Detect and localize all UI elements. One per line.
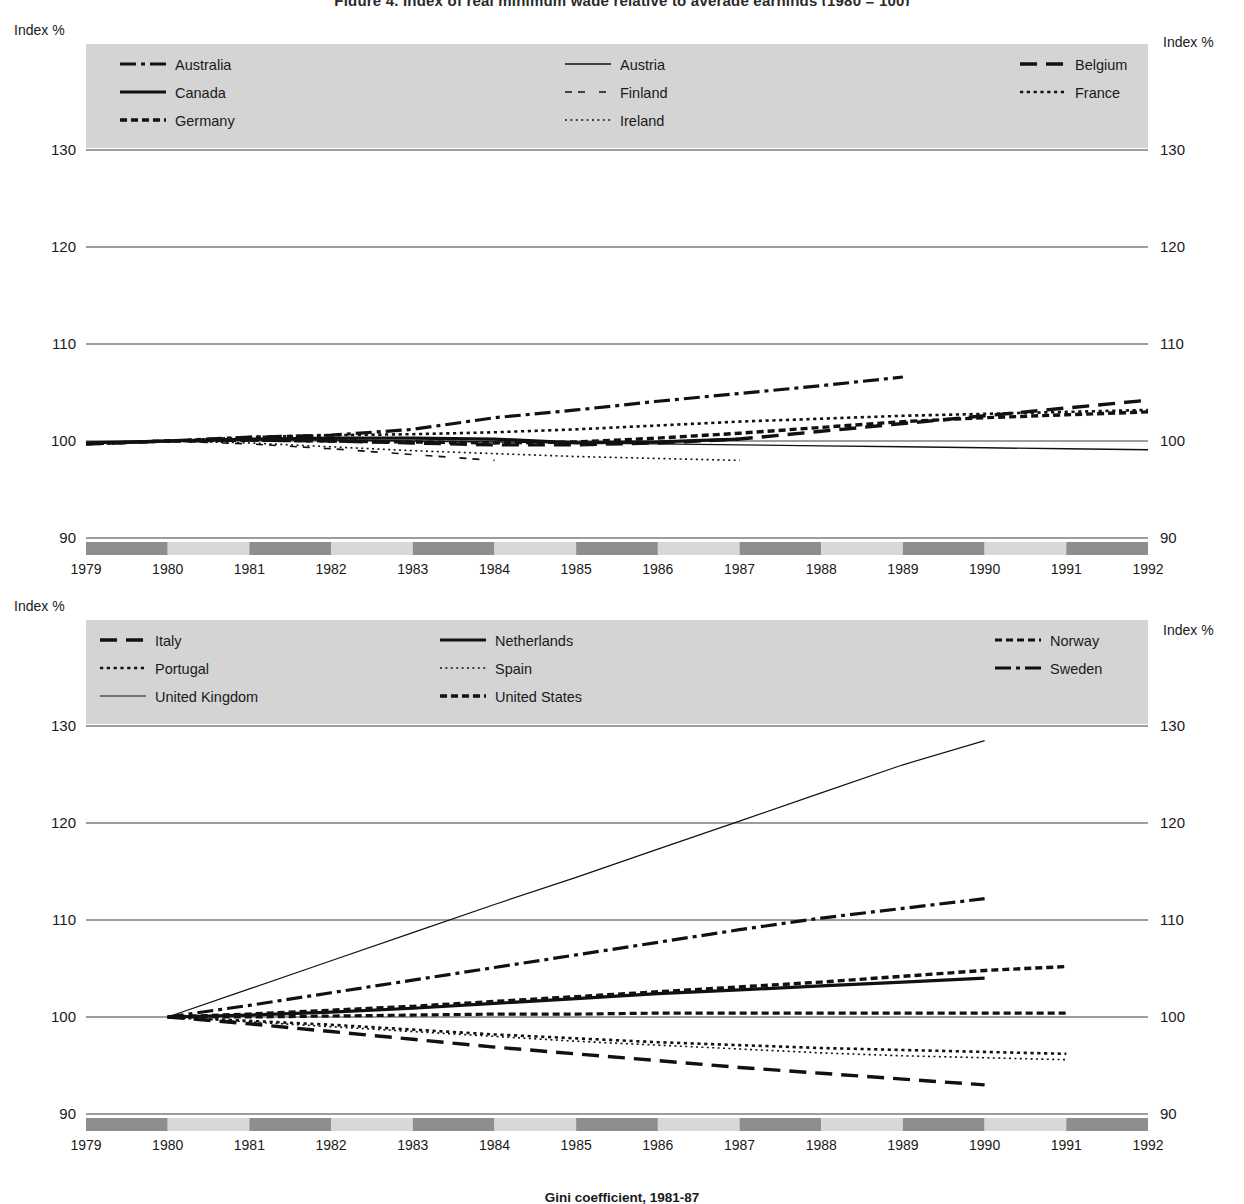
year-band-1980 [168, 1118, 250, 1131]
legend-label-spain: Spain [495, 661, 532, 677]
x-tick-label-1988: 1988 [806, 1137, 837, 1153]
legend-label-ireland: Ireland [620, 113, 664, 129]
y-tick-label-left-100: 100 [51, 432, 76, 449]
x-tick-label-1983: 1983 [397, 561, 428, 577]
x-tick-label-1980: 1980 [152, 561, 183, 577]
x-tick-label-1979: 1979 [70, 1137, 101, 1153]
year-band-1991 [1066, 1118, 1148, 1131]
year-band-1983 [413, 1118, 495, 1131]
legend-label-netherlands: Netherlands [495, 633, 573, 649]
year-band-1985 [576, 542, 658, 555]
y-tick-label-left-110: 110 [52, 911, 76, 928]
legend-label-sweden: Sweden [1050, 661, 1102, 677]
chart-bottom: Index % Index % 130130120120110110100100… [0, 598, 1244, 1183]
legend-label-portugal: Portugal [155, 661, 209, 677]
year-band-1981 [249, 1118, 331, 1131]
series-line-australia [86, 377, 903, 444]
y-tick-label-right-100: 100 [1160, 1008, 1185, 1025]
legend-label-austria: Austria [620, 57, 666, 73]
year-band-1987 [740, 542, 822, 555]
figure-title: Figure 4. Index of real minimum wage rel… [0, 0, 1244, 6]
y-tick-label-left-110: 110 [52, 335, 76, 352]
y-tick-label-left-130: 130 [51, 141, 76, 158]
year-band-1990 [985, 1118, 1067, 1131]
y-tick-label-right-110: 110 [1160, 911, 1184, 928]
legend-label-united-kingdom: United Kingdom [155, 689, 258, 705]
x-tick-label-1990: 1990 [969, 1137, 1000, 1153]
legend-label-france: France [1075, 85, 1120, 101]
y-tick-label-right-90: 90 [1160, 529, 1177, 546]
y-tick-label-left-90: 90 [59, 1105, 76, 1122]
year-band-1981 [249, 542, 331, 555]
series-line-united-kingdom [168, 741, 985, 1017]
y-tick-label-left-90: 90 [59, 529, 76, 546]
legend-label-germany: Germany [175, 113, 235, 129]
x-tick-label-1988: 1988 [806, 561, 837, 577]
year-band-1988 [821, 1118, 903, 1131]
year-band-1979 [86, 542, 168, 555]
series-line-portugal [168, 1017, 1067, 1054]
year-band-1982 [331, 1118, 413, 1131]
figure-page: Figure 4. Index of real minimum wage rel… [0, 0, 1244, 1204]
year-band-1983 [413, 542, 495, 555]
year-band-1986 [658, 1118, 740, 1131]
x-tick-label-1991: 1991 [1051, 1137, 1082, 1153]
series-line-italy [168, 1017, 985, 1085]
x-tick-label-1992: 1992 [1132, 561, 1163, 577]
x-tick-label-1987: 1987 [724, 1137, 755, 1153]
year-band-1984 [494, 542, 576, 555]
year-band-1986 [658, 542, 740, 555]
x-tick-label-1986: 1986 [642, 1137, 673, 1153]
x-tick-label-1992: 1992 [1132, 1137, 1163, 1153]
legend-background [86, 44, 1148, 148]
legend-label-italy: Italy [155, 633, 182, 649]
chart-bottom-canvas: 1301301201201101101001009090197919801981… [0, 598, 1244, 1183]
year-band-1980 [168, 542, 250, 555]
y-tick-label-right-120: 120 [1160, 814, 1185, 831]
legend-label-australia: Australia [175, 57, 232, 73]
chart-top-canvas: 1301301201201101101001009090197919801981… [0, 22, 1244, 592]
legend-label-belgium: Belgium [1075, 57, 1127, 73]
chart-top: Index % Index % 130130120120110110100100… [0, 22, 1244, 592]
x-tick-label-1979: 1979 [70, 561, 101, 577]
y-tick-label-right-130: 130 [1160, 717, 1185, 734]
legend-label-norway: Norway [1050, 633, 1100, 649]
year-band-1982 [331, 542, 413, 555]
year-band-1990 [985, 542, 1067, 555]
y-tick-label-left-130: 130 [51, 717, 76, 734]
x-tick-label-1983: 1983 [397, 1137, 428, 1153]
year-band-1991 [1066, 542, 1148, 555]
y-tick-label-right-100: 100 [1160, 432, 1185, 449]
x-tick-label-1980: 1980 [152, 1137, 183, 1153]
x-tick-label-1984: 1984 [479, 1137, 510, 1153]
x-tick-label-1990: 1990 [969, 561, 1000, 577]
year-band-1987 [740, 1118, 822, 1131]
year-band-1984 [494, 1118, 576, 1131]
y-tick-label-right-130: 130 [1160, 141, 1185, 158]
legend-label-united-states: United States [495, 689, 582, 705]
y-tick-label-left-100: 100 [51, 1008, 76, 1025]
legend-background [86, 620, 1148, 724]
series-line-spain [168, 1017, 1067, 1060]
x-tick-label-1982: 1982 [315, 561, 346, 577]
year-band-1985 [576, 1118, 658, 1131]
year-band-1988 [821, 542, 903, 555]
y-tick-label-left-120: 120 [51, 814, 76, 831]
legend-label-finland: Finland [620, 85, 668, 101]
x-tick-label-1982: 1982 [315, 1137, 346, 1153]
x-tick-label-1984: 1984 [479, 561, 510, 577]
x-tick-label-1986: 1986 [642, 561, 673, 577]
y-tick-label-right-120: 120 [1160, 238, 1185, 255]
series-line-united-states [168, 967, 1067, 1017]
x-tick-label-1987: 1987 [724, 561, 755, 577]
y-tick-label-left-120: 120 [51, 238, 76, 255]
y-tick-label-right-110: 110 [1160, 335, 1184, 352]
x-tick-label-1981: 1981 [234, 561, 265, 577]
y-tick-label-right-90: 90 [1160, 1105, 1177, 1122]
x-tick-label-1989: 1989 [887, 1137, 918, 1153]
x-tick-label-1989: 1989 [887, 561, 918, 577]
x-tick-label-1985: 1985 [561, 561, 592, 577]
year-band-1989 [903, 1118, 985, 1131]
legend-label-canada: Canada [175, 85, 227, 101]
x-tick-label-1991: 1991 [1051, 561, 1082, 577]
